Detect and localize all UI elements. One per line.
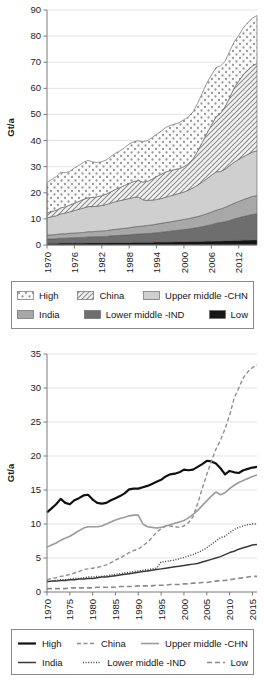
legend-row: HighChinaUpper middle -CHN <box>17 634 248 653</box>
x-tick-label: 1976 <box>69 252 80 273</box>
x-tick-label: 1970 <box>42 252 53 273</box>
legend-swatch-china <box>76 639 96 648</box>
legend-label: Upper middle -CHN <box>165 290 248 301</box>
x-tick-label: 1970 <box>42 599 53 620</box>
legend-row: IndiaLower middle -INDLow <box>17 653 248 672</box>
legend-label: China <box>101 638 126 649</box>
legend-swatch-high <box>17 639 37 648</box>
y-tick-label: 40 <box>30 135 41 146</box>
swatch-fill <box>78 292 94 300</box>
y-tick-label: 0 <box>36 586 41 597</box>
legend-label: Low <box>231 657 248 668</box>
legend-entry-low[interactable]: Low <box>209 309 248 320</box>
x-tick-label: 1975 <box>64 599 75 620</box>
legend-swatch-india <box>17 310 34 319</box>
legend-entry-india[interactable]: India <box>17 309 60 320</box>
stacked-area-legend: HighChinaUpper middle -CHNIndiaLower mid… <box>11 281 254 329</box>
x-tick-label: 1990 <box>133 599 144 620</box>
y-tick-label: 25 <box>30 416 41 427</box>
legend-label: High <box>39 290 59 301</box>
x-tick-label: 1980 <box>87 599 98 620</box>
y-tick-label: 70 <box>30 56 41 67</box>
y-axis-title: Gt/a <box>5 118 16 137</box>
y-tick-label: 90 <box>30 4 41 15</box>
legend-entry-high[interactable]: High <box>17 290 59 301</box>
x-tick-labels: 19701976198219881994200020062012 <box>42 245 245 273</box>
x-tick-label: 1994 <box>151 252 162 273</box>
x-tick-label: 1988 <box>124 252 135 273</box>
x-tick-label: 1995 <box>156 599 167 620</box>
legend-entry-india[interactable]: India <box>17 657 63 668</box>
y-tick-label: 30 <box>30 161 41 172</box>
legend-label: Low <box>231 309 248 320</box>
y-tick-label: 15 <box>30 484 41 495</box>
x-tick-label: 2000 <box>179 599 190 620</box>
line-chart-panel: 0510152025303519701975198019851990199520… <box>0 340 264 687</box>
legend-label: Lower middle -IND <box>106 309 185 320</box>
swatch-fill <box>18 292 34 300</box>
y-tick-label: 5 <box>36 552 41 563</box>
legend-label: Upper middle -CHN <box>165 638 248 649</box>
legend-swatch-upper-middle-chn <box>143 291 160 300</box>
y-axis-title: Gt/a <box>5 463 16 482</box>
legend-entry-upper-middle-chn[interactable]: Upper middle -CHN <box>140 638 248 649</box>
legend-entry-china[interactable]: China <box>76 638 126 649</box>
x-tick-label: 2012 <box>233 252 244 273</box>
line-chart-legend: HighChinaUpper middle -CHNIndiaLower mid… <box>11 629 254 675</box>
x-tick-labels: 1970197519801985199019952000200520102015 <box>42 592 258 620</box>
legend-label: High <box>42 638 62 649</box>
y-tick-label: 0 <box>36 239 41 250</box>
legend-swatch-low <box>209 310 226 319</box>
y-tick-labels: 0102030405060708090 <box>30 4 47 250</box>
x-tick-label: 2010 <box>224 599 235 620</box>
x-tick-label: 2015 <box>247 599 258 620</box>
legend-entry-upper-middle-chn[interactable]: Upper middle -CHN <box>143 290 248 301</box>
legend-swatch-china <box>77 291 94 300</box>
legend-row: IndiaLower middle -INDLow <box>17 305 248 324</box>
swatch-fill <box>209 311 225 319</box>
legend-label: Lower middle -IND <box>107 657 186 668</box>
line-high <box>47 461 257 513</box>
legend-entry-lower-middle-ind[interactable]: Lower middle -IND <box>82 657 186 668</box>
legend-label: India <box>42 657 63 668</box>
legend-swatch-india <box>17 658 37 667</box>
x-tick-label: 2000 <box>179 252 190 273</box>
legend-entry-lower-middle-ind[interactable]: Lower middle -IND <box>84 309 185 320</box>
legend-swatch-upper-middle-chn <box>140 639 160 648</box>
figure-container: 0102030405060708090197019761982198819942… <box>0 0 264 687</box>
x-tick-label: 2006 <box>206 252 217 273</box>
line-lower-middle-ind <box>47 524 257 581</box>
swatch-fill <box>84 311 100 319</box>
legend-label: China <box>99 290 124 301</box>
line-chart: 0510152025303519701975198019851990199520… <box>0 340 264 637</box>
line-china <box>47 365 257 580</box>
legend-label: India <box>39 309 60 320</box>
y-tick-label: 50 <box>30 108 41 119</box>
swatch-fill <box>18 311 34 319</box>
x-tick-label: 1985 <box>110 599 121 620</box>
line-upper-middle-chn <box>47 475 257 547</box>
y-tick-label: 80 <box>30 30 41 41</box>
stacked-area-panel: 0102030405060708090197019761982198819942… <box>0 0 264 335</box>
line-india <box>47 544 257 581</box>
area-series-group <box>47 15 257 245</box>
y-tick-label: 30 <box>30 382 41 393</box>
legend-row: HighChinaUpper middle -CHN <box>17 286 248 305</box>
y-tick-label: 10 <box>30 213 41 224</box>
y-tick-label: 10 <box>30 518 41 529</box>
stacked-area-chart: 0102030405060708090197019761982198819942… <box>0 0 264 290</box>
y-tick-label: 20 <box>30 450 41 461</box>
legend-swatch-low <box>206 658 226 667</box>
x-tick-label: 2005 <box>201 599 212 620</box>
legend-entry-high[interactable]: High <box>17 638 62 649</box>
legend-entry-low[interactable]: Low <box>206 657 248 668</box>
legend-swatch-lower-middle-ind <box>84 310 101 319</box>
legend-swatch-lower-middle-ind <box>82 658 102 667</box>
y-tick-label: 35 <box>30 348 41 359</box>
y-tick-labels: 05101520253035 <box>30 348 47 597</box>
y-tick-label: 60 <box>30 82 41 93</box>
legend-swatch-high <box>17 291 34 300</box>
line-series-group <box>47 365 257 589</box>
swatch-fill <box>144 292 160 300</box>
legend-entry-china[interactable]: China <box>77 290 124 301</box>
